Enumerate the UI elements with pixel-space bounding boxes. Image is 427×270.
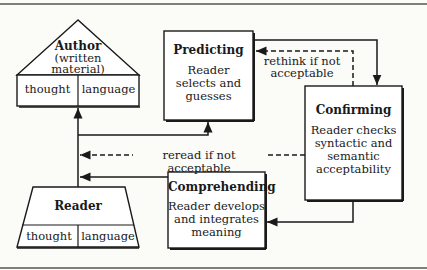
reread-label: reread if not acceptable xyxy=(133,149,265,175)
author-subtitle-2: material) xyxy=(38,63,118,76)
predicting-title: Predicting xyxy=(164,44,253,57)
author-language-cell: language xyxy=(78,83,139,96)
edge-to-predicting xyxy=(78,122,208,135)
predicting-line-3: guesses xyxy=(164,90,253,103)
reader-thought-cell: thought xyxy=(20,230,78,243)
reader-language-cell: language xyxy=(78,230,138,243)
reader-title: Reader xyxy=(38,200,118,213)
edge-confirming-to-comprehending xyxy=(267,202,353,222)
comprehending-line-3: meaning xyxy=(168,226,265,239)
author-thought-cell: thought xyxy=(17,83,78,96)
confirming-line-4: acceptability xyxy=(305,163,402,176)
rethink-label-2: acceptable xyxy=(262,67,342,80)
confirming-title: Confirming xyxy=(305,104,402,117)
comprehending-title: Comprehending xyxy=(168,181,265,194)
